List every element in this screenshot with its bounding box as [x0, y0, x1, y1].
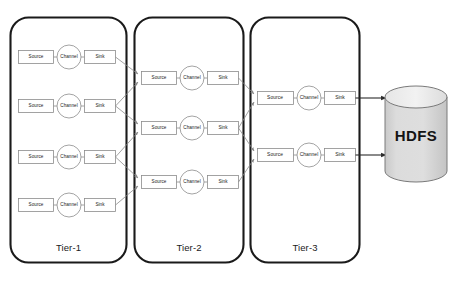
diagram-canvas: Source Channel Sink Source Channel Sink … — [0, 0, 464, 281]
tier-1-agents — [19, 45, 116, 217]
tier-2-agent-1-source-label: Source — [152, 76, 167, 81]
tier2-to-tier3-connectors — [239, 78, 255, 182]
tier-1-label: Tier-1 — [10, 242, 127, 253]
tier-1-agent-4-sink-label: Sink — [95, 203, 104, 208]
tier-1-agent-3-sink-label: Sink — [95, 155, 104, 160]
tier-1-agent-2-channel-label: Channel — [60, 104, 77, 109]
tier-2-agent-3-sink-label: Sink — [218, 180, 227, 185]
connector-t2a2-t3a2 — [239, 128, 255, 151]
tier-1-agent-3-source-label: Source — [29, 155, 44, 160]
tier-1-agent-1-channel-label: Channel — [60, 55, 77, 60]
tier-1-agent-2-source-label: Source — [29, 104, 44, 109]
connector-t2a3-t3a2 — [239, 159, 255, 182]
tier-2-agent-2-channel-label: Channel — [183, 126, 200, 131]
tier-1-agent-1-sink-label: Sink — [95, 55, 104, 60]
tier-3-container — [251, 18, 360, 263]
tier-3-agent-1-sink-label: Sink — [335, 96, 345, 101]
tier-3-agent-2-channel-label: Channel — [300, 153, 319, 158]
tier-3-agent-2-source-label: Source — [267, 153, 283, 158]
connector-t2a2-t3a1 — [239, 102, 255, 128]
tier-2-agent-1-channel-label: Channel — [183, 76, 200, 81]
tier-3-agent-2-sink-label: Sink — [335, 153, 345, 158]
cylinder-top — [385, 86, 447, 108]
tier-2-agent-1-sink-label: Sink — [218, 76, 227, 81]
tier-2-label: Tier-2 — [134, 242, 244, 253]
tier-1-agent-1-source-label: Source — [29, 55, 44, 60]
tier-2-agent-2-source-label: Source — [152, 126, 167, 131]
tier-3-agent-1-channel-label: Channel — [300, 96, 319, 101]
tier-1-agent-3-channel-label: Channel — [60, 155, 77, 160]
hdfs-label: HDFS — [395, 127, 437, 144]
tier-1-agent-2-sink-label: Sink — [95, 104, 104, 109]
tier-3-agent-1-source-label: Source — [267, 96, 283, 101]
tier-3-label: Tier-3 — [250, 242, 360, 253]
tier-1-agent-4-source-label: Source — [29, 203, 44, 208]
tier-2-agent-3-source-label: Source — [152, 180, 167, 185]
tier-1-agent-4-channel-label: Channel — [60, 203, 77, 208]
tier-2-agent-3-channel-label: Channel — [183, 180, 200, 185]
tier-2-agent-2-sink-label: Sink — [218, 126, 227, 131]
connector-t2a1-t3a1 — [239, 78, 255, 94]
